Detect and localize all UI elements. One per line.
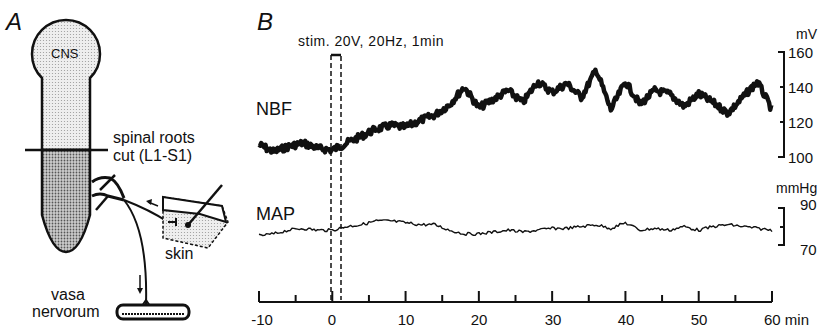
nbf-scale-bar bbox=[778, 52, 784, 157]
map-scale-bar bbox=[778, 208, 784, 245]
panel-b-chart bbox=[0, 0, 825, 333]
stim-marker bbox=[331, 55, 341, 300]
map-trace bbox=[259, 220, 772, 236]
nbf-trace bbox=[259, 70, 771, 153]
x-axis bbox=[259, 291, 772, 302]
